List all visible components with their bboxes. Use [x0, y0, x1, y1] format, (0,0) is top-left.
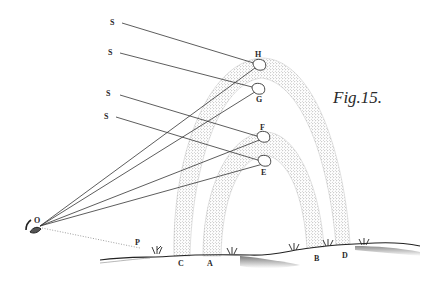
- label-E: E: [261, 168, 266, 177]
- label-O: O: [34, 216, 40, 225]
- label-S-3: S: [106, 89, 111, 98]
- figure-title: Fig.15.: [332, 88, 382, 107]
- label-A: A: [207, 259, 213, 268]
- drop-H: [253, 59, 266, 70]
- label-S-4: S: [104, 112, 109, 121]
- sun-ray-to-H: [122, 23, 257, 64]
- drop-G: [252, 83, 265, 94]
- inner-rainbow-band: [203, 132, 324, 256]
- label-H: H: [255, 50, 262, 59]
- rainbow-diagram: S S S S H G F E O P C A B D Fig.15.: [0, 0, 422, 288]
- horizon-line: [42, 228, 140, 248]
- label-S-1: S: [110, 18, 115, 27]
- label-C: C: [178, 259, 184, 268]
- drop-F: [257, 131, 270, 142]
- label-D: D: [342, 251, 348, 260]
- ground-shading: [240, 256, 300, 268]
- label-P: P: [135, 238, 140, 247]
- drop-E: [258, 155, 271, 166]
- label-B: B: [314, 254, 320, 263]
- label-F: F: [260, 123, 265, 132]
- label-G: G: [256, 95, 262, 104]
- ground-shading-right: [355, 246, 420, 256]
- label-S-2: S: [108, 48, 113, 57]
